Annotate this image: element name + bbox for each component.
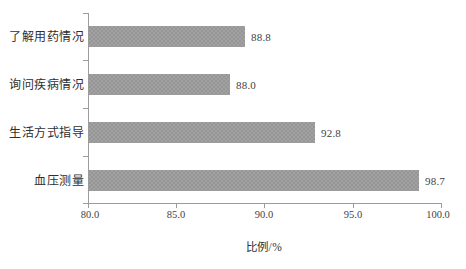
x-tick-label: 80.0 xyxy=(81,209,99,221)
y-axis-tick xyxy=(83,156,89,157)
bar-value-label: 88.0 xyxy=(236,79,256,91)
x-tick-label: 100.0 xyxy=(426,209,450,221)
bar-liaojie-yongyao-qingkuang xyxy=(89,26,245,47)
bar-chart: 88.8 88.0 92.8 98.7 了解用药情况 询问疾病情况 生活方式指导… xyxy=(0,0,466,269)
x-axis-title-text: 比例/% xyxy=(246,241,283,253)
bar-value-label: 92.8 xyxy=(321,127,341,139)
category-label-liaojie-yongyao-qingkuang: 了解用药情况 xyxy=(9,30,84,44)
x-tick-label: 85.0 xyxy=(167,209,185,221)
bar-shenghuo-fangshi-zhidao xyxy=(89,122,315,143)
bar-xueya-celiang xyxy=(89,170,419,191)
y-axis-tick xyxy=(83,13,89,14)
x-tick-label: 95.0 xyxy=(344,209,362,221)
category-label-shenghuo-fangshi-zhidao: 生活方式指导 xyxy=(9,126,84,140)
x-axis-tick xyxy=(264,203,265,208)
bar-xunwen-jibing-qingkuang xyxy=(89,74,230,95)
y-axis-tick xyxy=(83,60,89,61)
x-tick-label: 90.0 xyxy=(255,209,273,221)
bar-value-label: 88.8 xyxy=(251,31,271,43)
x-axis-tick xyxy=(441,203,442,208)
x-axis-title: 比例/% xyxy=(0,238,466,254)
x-axis-tick xyxy=(176,203,177,208)
y-axis-tick xyxy=(83,108,89,109)
bar-value-label: 98.7 xyxy=(425,175,445,187)
category-label-xunwen-jibing-qingkuang: 询问疾病情况 xyxy=(9,78,84,92)
category-label-xueya-celiang: 血压测量 xyxy=(34,174,84,188)
x-axis-tick xyxy=(353,203,354,208)
x-axis-tick xyxy=(88,203,89,208)
